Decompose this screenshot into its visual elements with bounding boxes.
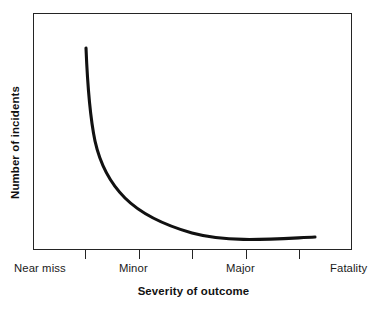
x-tick-1 [85, 250, 86, 259]
x-tick-4 [246, 250, 247, 259]
x-tick-label-fatality: Fatality [330, 261, 367, 275]
x-tick-3 [192, 250, 193, 259]
plot-area-frame [33, 13, 352, 250]
x-tick-5 [299, 250, 300, 259]
y-axis-title: Number of incidents [4, 24, 26, 261]
x-tick-label-minor: Minor [119, 261, 148, 275]
x-tick-label-major: Major [226, 261, 255, 275]
x-axis-title: Severity of outcome [0, 285, 387, 297]
x-tick-label-near-miss: Near miss [14, 261, 66, 275]
incident-severity-chart: Near miss Minor Major Fatality Severity … [0, 0, 387, 310]
x-tick-2 [139, 250, 140, 259]
